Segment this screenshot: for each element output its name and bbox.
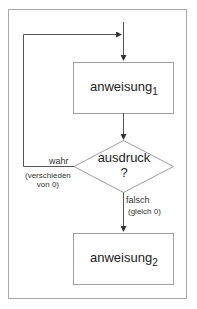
condition-question-mark: ?	[94, 165, 154, 180]
condition-text: ausdruck	[94, 150, 154, 165]
statement1-label: anweisung1	[90, 79, 158, 97]
true-branch-note: (verschieden von 0)	[25, 171, 71, 189]
statement2-subscript: 2	[152, 257, 158, 268]
statement2-label: anweisung2	[90, 250, 158, 268]
true-branch-label: wahr	[49, 157, 69, 166]
statement1-subscript: 1	[152, 86, 158, 97]
false-branch-label: falsch	[126, 196, 150, 205]
false-branch-note: (gleich 0)	[128, 207, 161, 216]
condition-label: ausdruck ?	[94, 150, 154, 180]
